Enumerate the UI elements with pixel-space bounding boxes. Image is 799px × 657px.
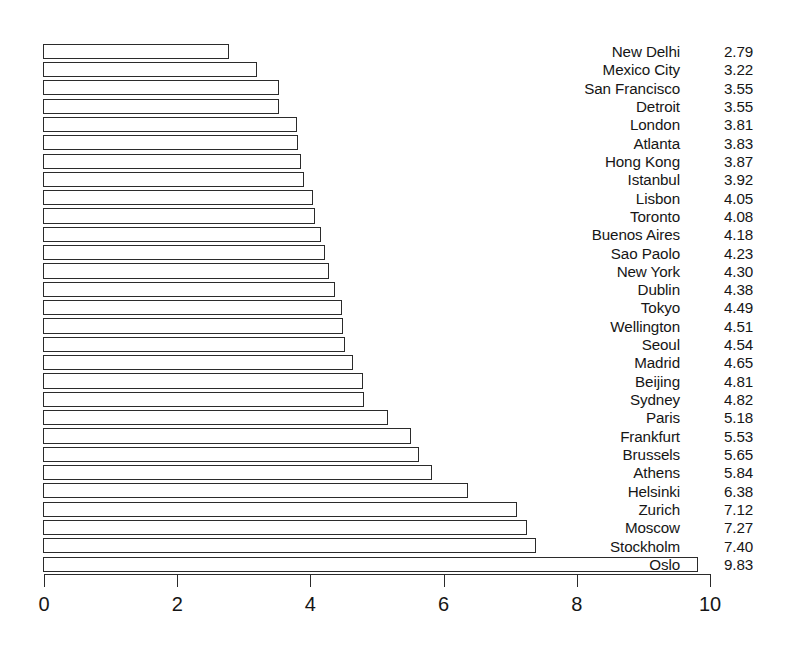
bar-category-label: Dublin (430, 281, 680, 299)
x-axis-tick-label: 6 (404, 592, 484, 616)
x-axis-tick (577, 574, 578, 587)
bar-value-label: 3.83 (724, 135, 786, 153)
bar-value-label: 7.27 (724, 519, 786, 537)
bar-row: Paris5.18 (0, 409, 799, 427)
bar-category-label: Detroit (430, 98, 680, 116)
plot-area: New Delhi2.79Mexico City3.22San Francisc… (0, 0, 799, 560)
bar-value-label: 4.82 (724, 391, 786, 409)
bar-category-label: Madrid (430, 354, 680, 372)
bar-row: Stockholm7.40 (0, 538, 799, 556)
x-axis-tick (710, 574, 711, 587)
bar (43, 135, 298, 150)
bar-row: San Francisco3.55 (0, 80, 799, 98)
bar-value-label: 4.30 (724, 263, 786, 281)
x-axis-tick-label: 8 (537, 592, 617, 616)
bar-row: Beijing4.81 (0, 373, 799, 391)
bar-row: Buenos Aires4.18 (0, 226, 799, 244)
bar-value-label: 3.87 (724, 153, 786, 171)
bar-category-label: San Francisco (430, 80, 680, 98)
bar-row: Sydney4.82 (0, 391, 799, 409)
bar-category-label: Helsinki (430, 483, 680, 501)
bar-category-label: Stockholm (430, 538, 680, 556)
bar-category-label: London (430, 116, 680, 134)
x-axis-tick-label: 4 (270, 592, 350, 616)
x-axis-tick (310, 574, 311, 587)
bar-row: Helsinki6.38 (0, 483, 799, 501)
bar-value-label: 5.84 (724, 464, 786, 482)
bar-value-label: 3.81 (724, 116, 786, 134)
bar-row: Madrid4.65 (0, 354, 799, 372)
bar-value-label: 4.49 (724, 299, 786, 317)
x-axis-tick (44, 574, 45, 587)
bar-chart: New Delhi2.79Mexico City3.22San Francisc… (0, 0, 799, 657)
bar-row: Mexico City3.22 (0, 61, 799, 79)
bar-value-label: 7.12 (724, 501, 786, 519)
bar-row: Sao Paolo4.23 (0, 245, 799, 263)
bar-category-label: Istanbul (430, 171, 680, 189)
bar-category-label: Hong Kong (430, 153, 680, 171)
bar-value-label: 5.65 (724, 446, 786, 464)
bar-row: Istanbul3.92 (0, 171, 799, 189)
bar-row: Athens5.84 (0, 464, 799, 482)
bar (43, 44, 229, 59)
bar (43, 245, 325, 260)
bar-category-label: Beijing (430, 373, 680, 391)
bar (43, 190, 313, 205)
bar-value-label: 5.53 (724, 428, 786, 446)
bar-value-label: 5.18 (724, 409, 786, 427)
bar-value-label: 2.79 (724, 43, 786, 61)
bar (43, 337, 345, 352)
bar-category-label: Frankfurt (430, 428, 680, 446)
bar-row: Frankfurt5.53 (0, 428, 799, 446)
bar-row: New Delhi2.79 (0, 43, 799, 61)
bar (43, 282, 335, 297)
bar-category-label: Sydney (430, 391, 680, 409)
bar-category-label: Tokyo (430, 299, 680, 317)
bar (43, 373, 363, 388)
bar-value-label: 4.51 (724, 318, 786, 336)
bar-row: Hong Kong3.87 (0, 153, 799, 171)
bar-category-label: Lisbon (430, 190, 680, 208)
bar-category-label: New York (430, 263, 680, 281)
bar (43, 62, 257, 77)
bar-value-label: 4.08 (724, 208, 786, 226)
bar-category-label: Zurich (430, 501, 680, 519)
bar (43, 154, 301, 169)
bar (43, 208, 315, 223)
x-axis-tick (444, 574, 445, 587)
bar (43, 465, 432, 480)
bar (43, 318, 343, 333)
bar-row: Zurich7.12 (0, 501, 799, 519)
bar (43, 227, 321, 242)
bar-category-label: Wellington (430, 318, 680, 336)
bar-value-label: 4.23 (724, 245, 786, 263)
x-axis-tick-label: 10 (670, 592, 750, 616)
bar (43, 392, 364, 407)
bar-category-label: Atlanta (430, 135, 680, 153)
bar (43, 99, 279, 114)
bar-row: Lisbon4.05 (0, 190, 799, 208)
bar-row: Seoul4.54 (0, 336, 799, 354)
bar-value-label: 6.38 (724, 483, 786, 501)
bar-row: Wellington4.51 (0, 318, 799, 336)
bar (43, 80, 279, 95)
bar-row: New York4.30 (0, 263, 799, 281)
bar-value-label: 4.38 (724, 281, 786, 299)
bar-row: Moscow7.27 (0, 519, 799, 537)
bar (43, 447, 419, 462)
bar-category-label: Paris (430, 409, 680, 427)
x-axis-tick-label: 0 (4, 592, 84, 616)
bar (43, 410, 388, 425)
bar-row: Dublin4.38 (0, 281, 799, 299)
bar-row: Atlanta3.83 (0, 135, 799, 153)
bar-value-label: 3.22 (724, 61, 786, 79)
bar-row: Detroit3.55 (0, 98, 799, 116)
bar-row: Tokyo4.49 (0, 299, 799, 317)
bar (43, 355, 353, 370)
bar-category-label: Buenos Aires (430, 226, 680, 244)
bar-value-label: 3.55 (724, 98, 786, 116)
bar-category-label: Mexico City (430, 61, 680, 79)
bar-row: Toronto4.08 (0, 208, 799, 226)
x-axis: 0246810 (0, 560, 799, 657)
bar (43, 117, 297, 132)
